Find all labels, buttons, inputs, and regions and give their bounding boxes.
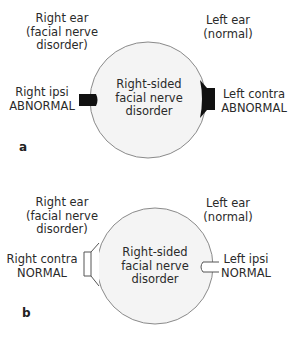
center-line-1: Right-sided — [115, 78, 182, 92]
left-ear-title: Left ear — [203, 14, 252, 28]
panel-a-center-label: Right-sided facial nerve disorder — [115, 78, 182, 119]
center-line-3: disorder — [121, 273, 188, 287]
left-contra-abnormal-horn-icon — [200, 80, 215, 118]
probe-status: ABNORMAL — [221, 102, 287, 116]
panel-b-right-ear-label: Right ear (facial nerve disorder) — [26, 196, 98, 237]
probe-name: Left ipsi — [221, 253, 271, 267]
right-ipsi-abnormal-probe-icon — [79, 94, 98, 106]
right-ear-desc: (facial nerve — [26, 26, 98, 40]
right-ear-title: Right ear — [26, 196, 98, 210]
panel-b-left-ear-label: Left ear (normal) — [203, 197, 252, 224]
panel-a-left-ear-label: Left ear (normal) — [203, 14, 252, 41]
panel-b-center-label: Right-sided facial nerve disorder — [121, 246, 188, 287]
panel-a-left-contra-label: Left contra ABNORMAL — [221, 88, 287, 115]
center-line-2: facial nerve — [115, 92, 182, 106]
right-ear-desc-2: disorder) — [26, 39, 98, 53]
probe-name: Right ipsi — [9, 86, 75, 100]
panel-b-right-contra-label: Right contra NORMAL — [7, 253, 78, 280]
left-ear-title: Left ear — [203, 197, 252, 211]
center-line-2: facial nerve — [121, 260, 188, 274]
panel-b-left-ipsi-label: Left ipsi NORMAL — [221, 253, 271, 280]
panel-b-letter: b — [22, 306, 31, 320]
panel-a-letter: a — [19, 140, 27, 154]
panel-a-right-ipsi-label: Right ipsi ABNORMAL — [9, 86, 75, 113]
center-line-3: disorder — [115, 105, 182, 119]
left-ear-desc: (normal) — [203, 211, 252, 225]
right-ear-desc: (facial nerve — [26, 210, 98, 224]
probe-name: Right contra — [7, 253, 78, 267]
right-ear-desc-2: disorder) — [26, 223, 98, 237]
left-ear-desc: (normal) — [203, 28, 252, 42]
probe-name: Left contra — [221, 88, 287, 102]
probe-status: NORMAL — [221, 267, 271, 281]
probe-status: ABNORMAL — [9, 100, 75, 114]
panel-a-right-ear-label: Right ear (facial nerve disorder) — [26, 12, 98, 53]
center-line-1: Right-sided — [121, 246, 188, 260]
right-ear-title: Right ear — [26, 12, 98, 26]
left-ipsi-normal-probe-icon — [201, 262, 219, 272]
probe-status: NORMAL — [7, 267, 78, 281]
